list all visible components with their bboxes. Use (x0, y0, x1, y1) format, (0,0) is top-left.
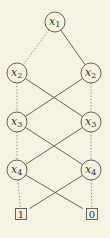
bdd-diagram: x1x2x2x3x3x4x410 (0, 0, 110, 238)
edge-dotted-n4L-t1 (18, 180, 21, 209)
bdd-node-n4L: x4 (7, 160, 27, 180)
edge-dotted-n1-n2L (23, 30, 49, 65)
bdd-node-n1: x1 (45, 12, 65, 32)
edges-layer (17, 30, 92, 208)
edge-solid-n4L-t0 (26, 175, 83, 208)
edge-dotted-n4R-t0 (91, 180, 92, 209)
edge-solid-n1-n2R (61, 30, 85, 65)
nodes-layer: x1x2x2x3x3x4x410 (7, 12, 101, 220)
terminal-0: 0 (87, 209, 98, 220)
terminal-label: 0 (89, 209, 95, 220)
terminal-1: 1 (16, 209, 27, 220)
bdd-node-n2R: x2 (81, 63, 101, 83)
bdd-node-n3L: x3 (7, 112, 27, 132)
bdd-node-n3R: x3 (81, 112, 101, 132)
bdd-node-n4R: x4 (81, 160, 101, 180)
terminal-label: 1 (18, 209, 24, 220)
bdd-node-n2L: x2 (7, 63, 27, 83)
